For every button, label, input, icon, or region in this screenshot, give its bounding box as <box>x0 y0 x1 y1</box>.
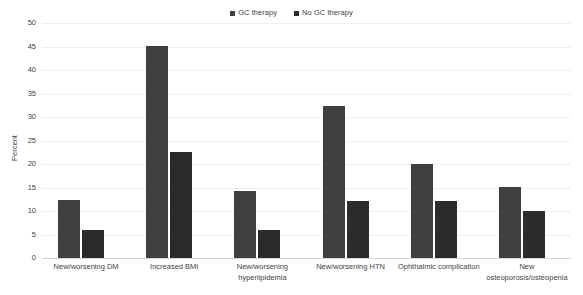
gridline <box>42 235 571 236</box>
x-axis-label: New/worsening HTN <box>307 261 395 272</box>
bar[interactable] <box>523 211 545 258</box>
gridline <box>42 164 571 165</box>
x-axis-label-line: Increased BMI <box>130 261 218 272</box>
x-axis-label-line: osteoporosis/osteopenia <box>483 272 571 283</box>
bar-group <box>323 23 369 258</box>
x-axis-baseline <box>42 258 571 259</box>
x-axis-label-line: Ophthalmic complication <box>395 261 483 272</box>
gridline <box>42 141 571 142</box>
bar[interactable] <box>258 230 280 258</box>
y-tick-label: 5 <box>6 231 36 239</box>
y-tick-label: 10 <box>6 207 36 215</box>
bar[interactable] <box>234 191 256 258</box>
bar[interactable] <box>170 152 192 258</box>
legend-entry[interactable]: GC therapy <box>230 9 277 17</box>
y-tick-label: 40 <box>6 66 36 74</box>
x-axis-label: New/worseninghyperlipidemia <box>218 261 306 283</box>
gridline <box>42 94 571 95</box>
y-tick-label: 50 <box>6 19 36 27</box>
bar-group <box>234 23 280 258</box>
x-axis-label: Newosteoporosis/osteopenia <box>483 261 571 283</box>
y-axis-title: Percent <box>11 135 19 161</box>
y-tick-label: 35 <box>6 90 36 98</box>
x-axis-label-line: New <box>483 261 571 272</box>
y-tick-label: 30 <box>6 113 36 121</box>
x-axis-label-line: hyperlipidemia <box>218 272 306 283</box>
gridline <box>42 47 571 48</box>
y-tick-label: 45 <box>6 43 36 51</box>
bar-chart: GC therapyNo GC therapy 0510152025303540… <box>0 0 583 295</box>
bar[interactable] <box>82 230 104 258</box>
bar[interactable] <box>435 201 457 258</box>
bar[interactable] <box>58 200 80 258</box>
bar[interactable] <box>323 106 345 258</box>
gridline <box>42 211 571 212</box>
plot-area: 05101520253035404550 <box>42 23 571 258</box>
x-axis-labels: New/worsening DMIncreased BMINew/worseni… <box>42 261 571 295</box>
bar-group <box>58 23 104 258</box>
x-axis-label: Increased BMI <box>130 261 218 272</box>
y-tick-label: 0 <box>6 254 36 262</box>
gridline <box>42 23 571 24</box>
gridline <box>42 117 571 118</box>
chart-legend: GC therapyNo GC therapy <box>0 6 583 20</box>
bar[interactable] <box>499 187 521 258</box>
x-axis-label: Ophthalmic complication <box>395 261 483 272</box>
bar[interactable] <box>347 201 369 258</box>
legend-square-marker <box>294 11 299 16</box>
legend-entry[interactable]: No GC therapy <box>294 9 353 17</box>
bar[interactable] <box>146 46 168 258</box>
x-axis-label-line: New/worsening <box>218 261 306 272</box>
bar-group <box>499 23 545 258</box>
x-axis-label: New/worsening DM <box>42 261 130 272</box>
x-axis-label-line: New/worsening DM <box>42 261 130 272</box>
legend-label: No GC therapy <box>302 9 353 17</box>
y-tick-label: 15 <box>6 184 36 192</box>
y-tick-label: 20 <box>6 160 36 168</box>
gridline <box>42 188 571 189</box>
legend-square-marker <box>230 11 235 16</box>
bar-group <box>146 23 192 258</box>
legend-label: GC therapy <box>238 9 277 17</box>
bar[interactable] <box>411 164 433 258</box>
gridline <box>42 70 571 71</box>
x-axis-label-line: New/worsening HTN <box>307 261 395 272</box>
bar-group <box>411 23 457 258</box>
